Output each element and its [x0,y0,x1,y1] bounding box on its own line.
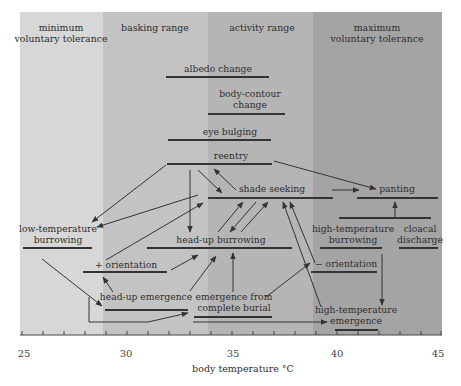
zone-maximum-label-2: voluntary tolerance [330,33,424,44]
label-low-temp-burrowing-1: low-temperature [19,223,97,234]
zone-basking-label: basking range [121,22,189,33]
label-high-temp-burrowing-2: burrowing [329,234,378,245]
tick-label-40: 40 [331,348,344,359]
tick-label-25: 25 [18,348,31,359]
label-albedo-change: albedo change [184,63,252,74]
label-head-up-emergence: head-up emergence [100,291,192,302]
x-axis-title: body temperature °C [192,363,294,374]
label-body-contour-1: body-contour [219,88,281,99]
label-cloacal-1: cloacal [404,223,437,234]
zone-minimum [20,12,103,335]
zone-minimum-label-1: minimum [39,22,84,33]
label-head-up-burrowing: head-up burrowing [176,234,265,245]
thermoregulation-diagram: minimum voluntary tolerance basking rang… [0,0,461,386]
x-axis: 25 30 35 40 45 body temperature °C [18,331,445,374]
label-eye-bulging: eye bulging [203,126,257,137]
label-reentry: reentry [214,150,249,161]
tick-label-30: 30 [120,348,133,359]
tick-label-45: 45 [432,348,445,359]
label-panting: panting [379,183,415,194]
zone-maximum-label-1: maximum [354,22,401,33]
zone-minimum-label-2: voluntary tolerance [14,33,108,44]
label-shade-seeking: shade seeking [239,183,305,194]
label-minus-orientation: − orientation [315,258,377,269]
zones [20,12,442,335]
zone-maximum [313,12,442,335]
zone-activity-label: activity range [229,22,295,33]
tick-label-35: 35 [227,348,240,359]
label-low-temp-burrowing-2: burrowing [34,234,83,245]
label-plus-orientation: + orientation [95,259,157,270]
label-cloacal-2: discharge [397,234,443,245]
label-high-temp-emergence-1: high-temperature [315,304,397,315]
label-high-temp-emergence-2: emergence [330,315,382,326]
label-emergence-burial-1: emergence from [196,291,273,302]
label-high-temp-burrowing-1: high-temperature [312,223,394,234]
label-emergence-burial-2: complete burial [197,302,270,313]
zone-activity [208,12,313,335]
label-body-contour-2: change [233,99,267,110]
